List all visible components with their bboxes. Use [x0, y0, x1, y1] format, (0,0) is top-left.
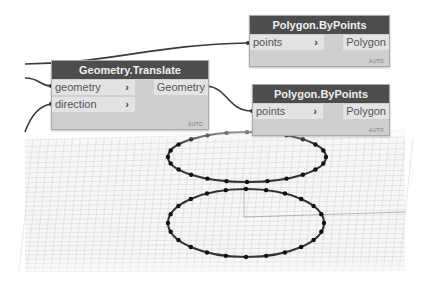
lacing-indicator[interactable]: AUTO — [188, 121, 203, 127]
port-label: points — [253, 36, 282, 48]
port-label: geometry — [55, 81, 101, 93]
chevron-right-icon[interactable]: › — [313, 104, 317, 119]
node-title: Geometry.Translate — [52, 61, 208, 79]
output-port-polygon[interactable]: Polygon — [343, 104, 389, 119]
input-port-direction[interactable]: direction › — [52, 97, 135, 112]
lacing-indicator[interactable]: AUTO — [369, 58, 384, 64]
port-label: direction — [55, 98, 97, 110]
node-title: Polygon.ByPoints — [253, 85, 389, 103]
chevron-right-icon[interactable]: › — [314, 35, 318, 50]
node-polygon-bypoints-bottom[interactable]: Polygon.ByPoints points › Polygon AUTO — [252, 84, 390, 136]
node-polygon-bypoints-top[interactable]: Polygon.ByPoints points › Polygon AUTO — [249, 15, 390, 67]
port-label: points — [256, 105, 285, 117]
output-port-polygon[interactable]: Polygon — [343, 35, 389, 50]
input-port-geometry[interactable]: geometry › — [52, 80, 135, 95]
chevron-right-icon[interactable]: › — [125, 80, 129, 95]
input-port-points[interactable]: points › — [250, 35, 324, 50]
input-port-points[interactable]: points › — [253, 104, 323, 119]
node-title: Polygon.ByPoints — [250, 16, 389, 34]
output-port-geometry[interactable]: Geometry — [154, 80, 208, 95]
node-geometry-translate[interactable]: Geometry.Translate geometry › Geometry d… — [51, 60, 209, 130]
lacing-indicator[interactable]: AUTO — [369, 127, 384, 133]
chevron-right-icon[interactable]: › — [125, 97, 129, 112]
